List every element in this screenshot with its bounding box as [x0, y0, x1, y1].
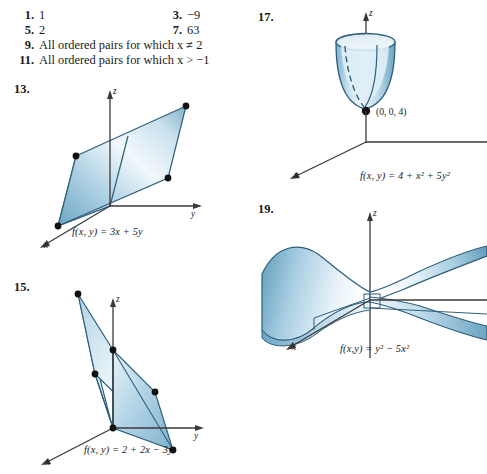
x-axis-label: x — [44, 240, 48, 250]
figure-17: 17. — [248, 4, 487, 194]
figure-15-graphic — [0, 272, 240, 472]
answer-entry: 5.2 — [14, 23, 45, 38]
saddle-right-lower-band — [370, 297, 487, 340]
y-axis-label: y — [191, 209, 195, 219]
plane-surface — [58, 106, 186, 226]
figure-13: 13. — [0, 78, 240, 253]
figure-number: 15. — [14, 280, 30, 295]
figure-number: 13. — [14, 82, 30, 97]
corner-dot — [165, 175, 172, 182]
vertex-point-label: (0, 0, 4) — [376, 106, 406, 117]
answer-entry: 1.1 — [14, 8, 45, 23]
figure-equation: f(x,y) = y² − 5x² — [340, 343, 409, 354]
corner-dot — [75, 291, 82, 298]
x-axis-label: x — [294, 170, 298, 180]
corner-dot — [110, 425, 117, 432]
answer-number: 3. — [162, 8, 182, 23]
answer-entry: 11.All ordered pairs for which x > −1 — [14, 53, 210, 68]
answer-number: 1. — [14, 8, 34, 23]
z-axis-label: z — [116, 294, 120, 304]
figure-equation: f(x, y) = 2 + 2x − 3y — [84, 444, 173, 455]
answer-text: All ordered pairs for which x > −1 — [39, 53, 210, 67]
corner-dot — [73, 153, 80, 160]
answer-entry: 7.63 — [162, 23, 199, 38]
x-axis — [296, 142, 366, 176]
answer-text: All ordered pairs for which x ≠ 2 — [39, 38, 202, 52]
z-axis-label: z — [369, 8, 373, 18]
corner-dot — [110, 347, 117, 354]
corner-dot — [152, 389, 159, 396]
answers-page: 1.1 3.−9 5.2 7.63 9.All ordered pairs fo… — [0, 0, 487, 474]
answer-entry: 9.All ordered pairs for which x ≠ 2 — [14, 38, 202, 53]
y-axis-label: y — [194, 431, 198, 441]
answer-number: 5. — [14, 23, 34, 38]
figure-equation: f(x, y) = 4 + x² + 5y² — [360, 170, 450, 181]
z-axis-label: z — [373, 208, 377, 218]
corner-dot — [55, 223, 62, 230]
saddle-right-wing — [370, 246, 487, 302]
answer-text: 63 — [187, 23, 199, 37]
z-axis-label: z — [113, 86, 117, 96]
answer-number: 11. — [14, 53, 34, 68]
answer-number: 7. — [162, 23, 182, 38]
figure-19: 19. — [248, 198, 487, 374]
figure-17-graphic — [248, 4, 487, 194]
figure-number: 17. — [258, 10, 274, 25]
x-axis-label: x — [292, 342, 296, 352]
answer-text: 2 — [39, 23, 45, 37]
answer-number: 9. — [14, 38, 34, 53]
corner-dot — [183, 103, 190, 110]
answer-text: −9 — [187, 8, 200, 22]
answer-entry: 3.−9 — [162, 8, 200, 23]
corner-dot — [92, 371, 99, 378]
figure-equation: f(x, y) = 3x + 5y — [72, 226, 143, 237]
figure-15: 15. — [0, 272, 240, 472]
figure-number: 19. — [258, 202, 274, 217]
x-axis-label: x — [46, 457, 50, 467]
answer-text: 1 — [39, 8, 45, 22]
